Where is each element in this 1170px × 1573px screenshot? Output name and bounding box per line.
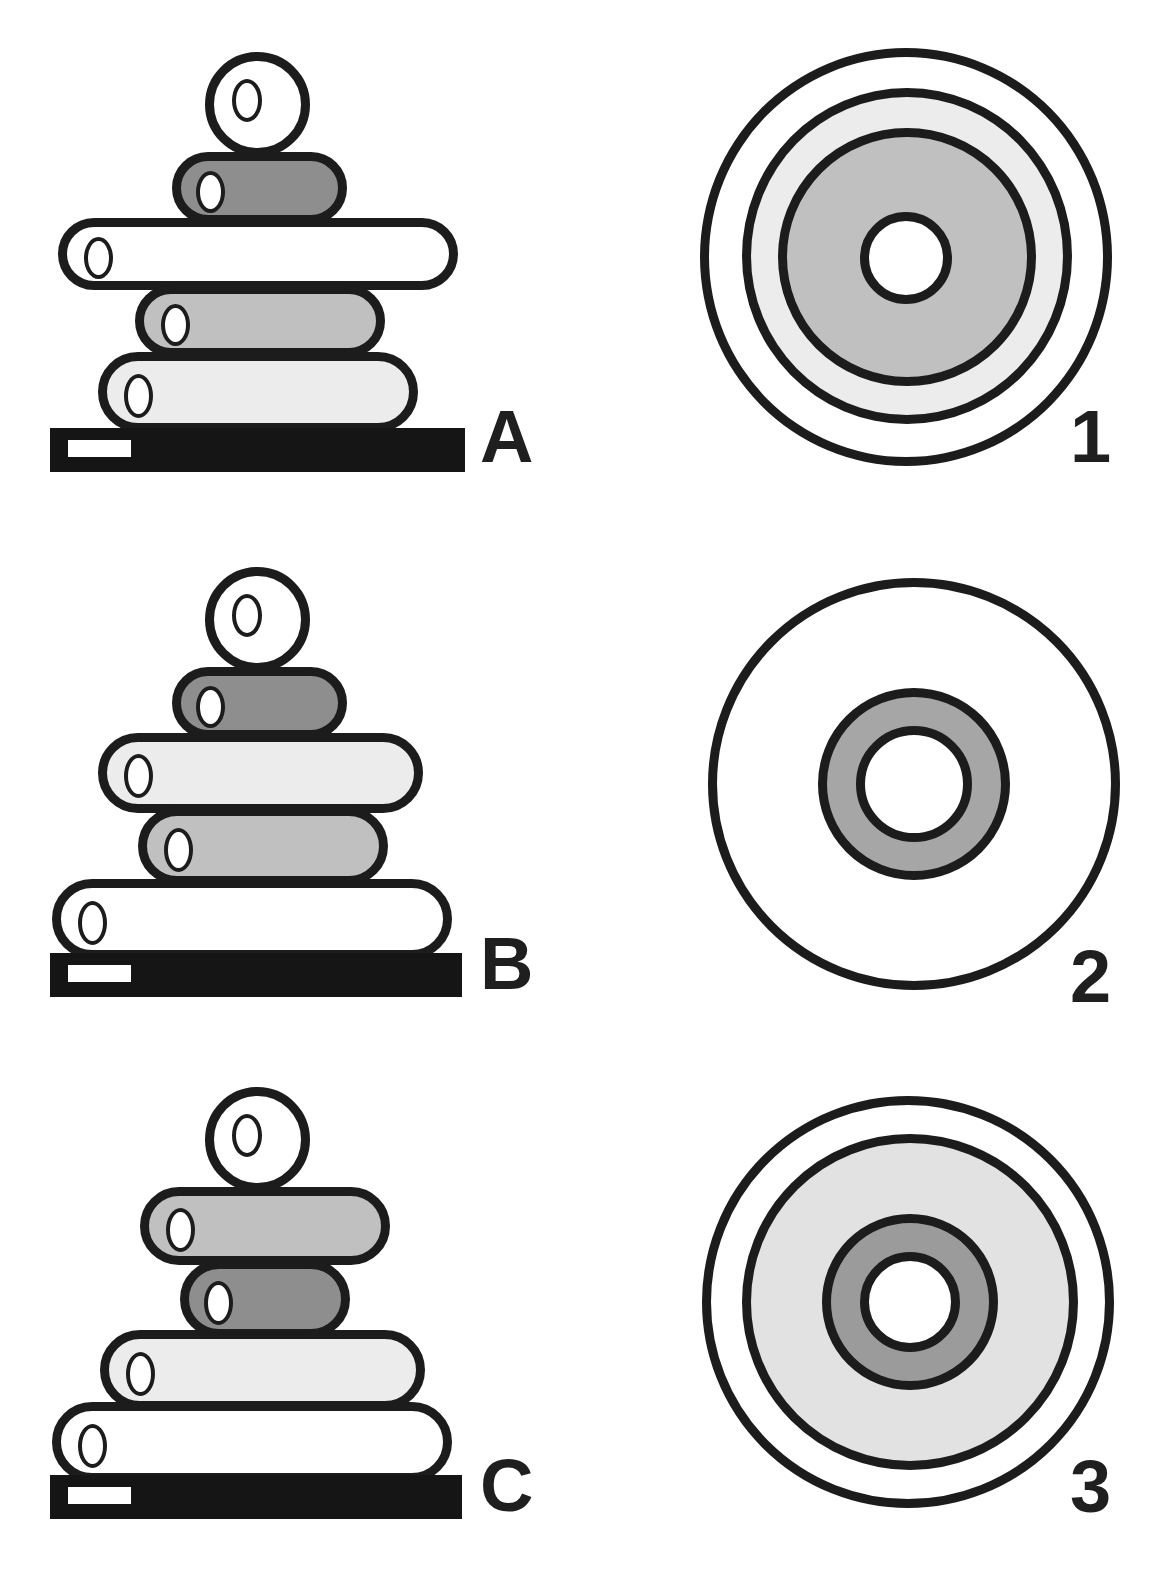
panel-a-label: A bbox=[480, 400, 533, 474]
panel-a: A bbox=[0, 30, 560, 530]
stack-c-layer-2 bbox=[180, 1260, 350, 1338]
panel-3: 3 bbox=[670, 1080, 1170, 1573]
stack-a-layer-3-endcap-icon bbox=[161, 304, 190, 346]
figure-root: A B bbox=[0, 0, 1170, 1573]
panel-c-scale-bar bbox=[68, 1487, 131, 1504]
panel-b-label: B bbox=[480, 927, 533, 1001]
stack-b-layer-2 bbox=[98, 733, 423, 813]
stack-c-layer-0-endcap-icon bbox=[232, 1114, 262, 1157]
stack-b-layer-1 bbox=[172, 667, 347, 739]
stack-a-layer-0-sphere bbox=[205, 52, 310, 157]
panel-b-scale-bar bbox=[68, 965, 131, 982]
stack-b-layer-4 bbox=[52, 879, 452, 959]
stack-b-layer-1-endcap-icon bbox=[196, 686, 225, 728]
stack-c-layer-2-endcap-icon bbox=[204, 1281, 233, 1325]
stack-a-layer-3 bbox=[135, 285, 385, 357]
stack-b-layer-0-sphere bbox=[205, 567, 310, 672]
stack-b-layer-3 bbox=[138, 807, 388, 885]
stack-b-layer-3-endcap-icon bbox=[164, 828, 193, 872]
panel-1-ring-3-center-hole bbox=[860, 212, 952, 304]
stack-b-layer-2-endcap-icon bbox=[124, 754, 153, 798]
stack-c-layer-1-endcap-icon bbox=[166, 1208, 195, 1252]
stack-b-layer-0-endcap-icon bbox=[232, 594, 262, 637]
panel-2-ring-2-center-hole bbox=[856, 726, 972, 842]
stack-a-layer-0-endcap-icon bbox=[232, 79, 262, 122]
panel-c: C bbox=[0, 1075, 560, 1573]
panel-c-label: C bbox=[480, 1449, 533, 1523]
panel-1: 1 bbox=[670, 30, 1170, 530]
panel-1-label: 1 bbox=[1070, 400, 1111, 474]
stack-c-layer-3 bbox=[100, 1330, 425, 1410]
stack-a-layer-1-endcap-icon bbox=[196, 171, 225, 213]
panel-2-label: 2 bbox=[1070, 940, 1111, 1014]
panel-a-scale-bar bbox=[68, 440, 131, 457]
stack-a-layer-4 bbox=[98, 352, 418, 432]
stack-a-layer-2-endcap-icon bbox=[84, 237, 113, 279]
stack-b-layer-4-endcap-icon bbox=[78, 901, 107, 945]
stack-c-layer-4-endcap-icon bbox=[78, 1424, 107, 1468]
panel-3-ring-3-center-hole bbox=[860, 1252, 960, 1352]
stack-a-layer-4-endcap-icon bbox=[124, 374, 153, 418]
panel-2: 2 bbox=[670, 560, 1170, 1060]
stack-c-layer-1 bbox=[140, 1187, 390, 1265]
stack-c-layer-4 bbox=[52, 1402, 452, 1482]
stack-c-layer-3-endcap-icon bbox=[126, 1352, 155, 1396]
stack-c-layer-0-sphere bbox=[205, 1087, 310, 1192]
panel-b: B bbox=[0, 555, 560, 1055]
stack-a-layer-2 bbox=[58, 218, 458, 290]
panel-3-label: 3 bbox=[1070, 1450, 1111, 1524]
stack-a-layer-1 bbox=[172, 152, 347, 224]
